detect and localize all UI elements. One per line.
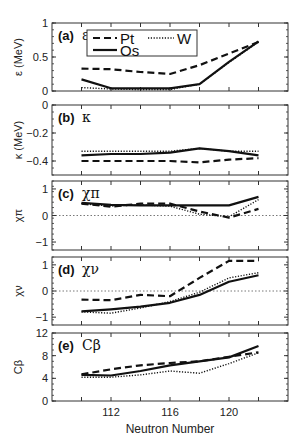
panel-label: (c) (58, 186, 74, 201)
y-axis-label: ε (MeV) (12, 38, 24, 76)
panel-e: 04812Cβ(e)Cβ (12, 327, 288, 407)
series-line-w (82, 200, 259, 217)
y-axis-label: χπ (12, 208, 24, 222)
y-tick-label: 1 (42, 183, 48, 195)
legend: PtWOs (87, 30, 197, 59)
y-axis-label: κ (MeV) (12, 121, 24, 160)
y-axis-label: χν (12, 285, 24, 297)
panel-d: −101χν(d)χν (12, 257, 288, 325)
y-axis-label: Cβ (12, 360, 24, 374)
y-tick-label: 8 (42, 350, 48, 362)
x-tick-label: 116 (161, 406, 179, 418)
panel-symbol: κ (82, 109, 91, 125)
panel-label: (a) (58, 28, 74, 43)
stacked-line-chart: 00.51ε (MeV)(a)ε0−0.2−0.4κ (MeV)(b)κ−101… (0, 0, 305, 446)
panel-c: −101χπ(c)χπ (12, 181, 288, 250)
x-axis-label: Neutron Number (126, 422, 215, 436)
y-tick-label: −1 (35, 311, 48, 323)
y-tick-label: 12 (36, 327, 48, 339)
y-tick-label: 0.5 (33, 51, 48, 63)
series-line-os (82, 275, 259, 311)
legend-label-os: Os (120, 42, 139, 59)
y-tick-label: −0.4 (26, 155, 48, 167)
y-tick-label: 4 (42, 372, 48, 384)
panel-symbol: χν (82, 261, 99, 277)
x-tick-label: 120 (220, 406, 238, 418)
y-tick-label: 0 (42, 395, 48, 407)
panel-symbol: χπ (82, 185, 100, 201)
panel-symbol: Cβ (82, 337, 101, 353)
panel-label: (d) (58, 262, 75, 277)
panel-label: (e) (58, 338, 74, 353)
y-tick-label: 0 (42, 99, 48, 111)
y-tick-label: 0 (42, 210, 48, 222)
panel-b: 0−0.2−0.4κ (MeV)(b)κ (12, 99, 288, 175)
y-tick-label: 1 (42, 259, 48, 271)
legend-label-w: W (177, 30, 192, 47)
x-tick-label: 112 (102, 406, 120, 418)
series-line-pt (82, 158, 259, 162)
y-tick-label: 1 (42, 17, 48, 29)
series-line-w (82, 273, 259, 314)
series-line-os (82, 346, 259, 376)
y-tick-label: −1 (35, 236, 48, 248)
panel-a: 00.51ε (MeV)(a)ε (12, 17, 288, 97)
y-tick-label: −0.2 (26, 127, 48, 139)
y-tick-label: 0 (42, 285, 48, 297)
panel-label: (b) (58, 110, 75, 125)
series-line-os (82, 148, 259, 155)
y-tick-label: 0 (42, 85, 48, 97)
